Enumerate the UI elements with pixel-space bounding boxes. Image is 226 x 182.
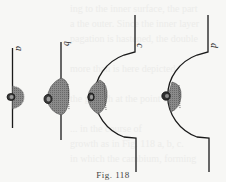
- panel-d: [162, 15, 209, 172]
- panel-c: [88, 15, 136, 172]
- panel-a: [7, 48, 24, 128]
- panel-d-label: d: [209, 43, 220, 48]
- panel-b-label: b: [62, 41, 73, 46]
- panel-d-mass: [169, 82, 181, 112]
- panel-a-label: a: [14, 46, 25, 51]
- panel-c-label: c: [135, 43, 146, 47]
- figure-caption: Fig. 118: [0, 170, 226, 180]
- figure-diagram: [0, 0, 226, 182]
- panel-b: [44, 42, 69, 140]
